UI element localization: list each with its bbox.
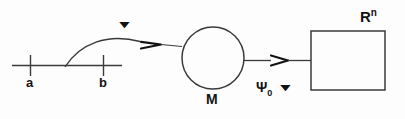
manifold-label-m: M [206,92,218,106]
curve-arrowhead [141,42,161,49]
psi-subscript: 0 [267,88,272,98]
map-arrow-label-psi: Ψ0 [256,80,272,98]
euclidean-space-rect-shape [311,31,385,90]
map-arrowhead [271,56,288,66]
interval-label-a: a [26,76,33,89]
curve-arrow-marker-icon: ▼ [116,19,133,29]
diagram-canvas: a b ▼ M Ψ0 ▼ Rn [0,0,405,119]
euclidean-space-label-r: Rn [360,8,377,24]
interval-label-b: b [99,76,107,89]
curve-tail-segment [161,45,182,47]
map-arrow-marker-icon: ▼ [277,82,294,92]
manifold-circle-shape [182,27,244,89]
r-symbol: R [360,8,371,25]
psi-symbol: Ψ [256,79,267,95]
curve-path [65,39,140,67]
r-superscript: n [371,7,377,18]
diagram-vector-layer [0,0,405,119]
